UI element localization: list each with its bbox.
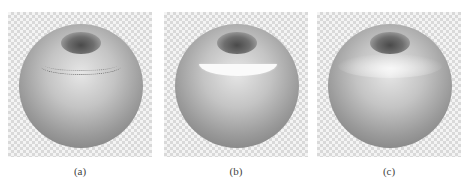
panel-b xyxy=(164,12,308,157)
sphere-render xyxy=(328,24,452,148)
panel-a xyxy=(8,12,152,157)
caption-c: (c) xyxy=(369,165,409,177)
caption-b: (b) xyxy=(216,165,256,177)
sphere-render xyxy=(175,24,299,148)
top-hole xyxy=(370,32,410,54)
selection-outline-inner xyxy=(45,60,117,71)
highlight-band xyxy=(338,54,442,78)
panel-c xyxy=(317,12,461,157)
caption-a: (a) xyxy=(60,165,100,177)
white-crescent-selection xyxy=(199,64,277,76)
top-hole xyxy=(217,32,257,54)
sphere-render xyxy=(19,24,143,148)
top-hole xyxy=(61,32,101,54)
